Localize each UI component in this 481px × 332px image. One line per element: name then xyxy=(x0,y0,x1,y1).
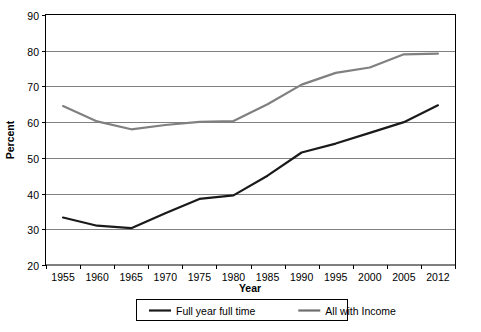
legend-label: Full year full time xyxy=(176,305,256,317)
x-axis-tick-label: 1975 xyxy=(188,271,212,283)
x-axis-title: Year xyxy=(239,282,261,294)
x-axis-tick-label: 1960 xyxy=(85,271,109,283)
x-axis-tick-label: 2005 xyxy=(392,271,416,283)
x-axis-tick-label: 1995 xyxy=(324,271,348,283)
y-axis-tick-label: 80 xyxy=(27,46,39,58)
y-axis-tick-label: 40 xyxy=(27,189,39,201)
x-axis-tick-label: 2012 xyxy=(426,271,450,283)
x-axis-tick-label: 2000 xyxy=(358,271,382,283)
y-axis-tick-label: 60 xyxy=(27,117,39,129)
y-axis-tick-label: 20 xyxy=(27,260,39,272)
y-axis-tick-label: 70 xyxy=(27,81,39,93)
chart-container: 2030405060708090 19551960196519701975198… xyxy=(0,0,481,332)
x-axis-tick-label: 1955 xyxy=(51,271,75,283)
line-chart: 2030405060708090 19551960196519701975198… xyxy=(0,0,481,332)
x-axis-tick-label: 1965 xyxy=(120,271,144,283)
legend-label: All with Income xyxy=(325,305,396,317)
x-axis-tick-label: 1990 xyxy=(290,271,314,283)
y-axis-tick-label: 30 xyxy=(27,224,39,236)
y-axis-tick-label: 50 xyxy=(27,153,39,165)
y-axis-title: Percent xyxy=(4,120,16,159)
x-axis-tick-label: 1970 xyxy=(154,271,178,283)
y-axis-tick-label: 90 xyxy=(27,10,39,22)
